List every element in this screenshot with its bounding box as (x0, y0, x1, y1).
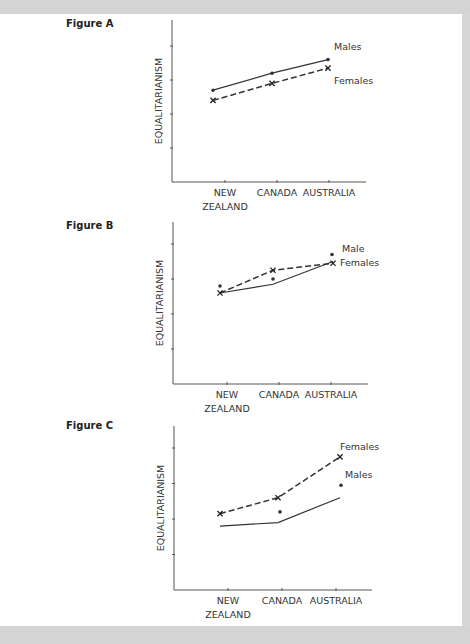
data-point-dot (278, 510, 282, 514)
series-label: Males (345, 469, 373, 480)
series-label: Females (340, 441, 379, 452)
x-tick-label: CANADA (262, 595, 303, 606)
x-tick-label: ZEALAND (205, 609, 250, 620)
x-tick-label: NEW (217, 595, 240, 606)
data-point-dot (339, 483, 343, 487)
x-tick-label: AUSTRALIA (310, 595, 363, 606)
data-point-x-marker (337, 454, 342, 459)
y-axis-label: EQUALITARIANISM (155, 465, 166, 552)
figure-c-chart: NEWZEALANDCANADAAUSTRALIAEQUALITARIANISM… (0, 0, 470, 644)
